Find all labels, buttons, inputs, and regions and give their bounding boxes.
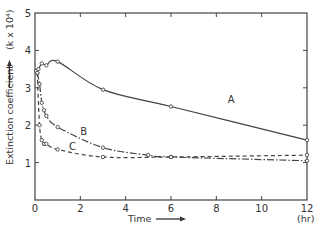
data-point [101,155,104,158]
x-axis-arrow-icon [156,217,186,222]
data-point [45,114,48,117]
data-point [38,82,41,85]
data-point [45,64,48,67]
data-point [40,101,43,104]
data-point [42,109,45,112]
series-b: B [36,71,309,162]
y-tick-label: 5 [25,8,31,19]
y-tick-label: 1 [25,158,31,169]
x-tick-label: 2 [77,203,83,214]
data-point [45,142,48,145]
x-axis-label: Time [127,213,151,224]
chart-labels: Time (hr) Extinction coefficient (k x 10… [4,10,314,224]
axis-ticks: 02468101212345 [25,8,314,214]
data-series: ABC [34,60,308,163]
data-point [169,105,172,108]
x-tick-label: 6 [168,203,174,214]
data-point [56,148,59,151]
x-tick-label: 0 [32,203,38,214]
curve-label-a: A [228,94,235,105]
data-point [38,124,41,127]
x-tick-label: 8 [213,203,219,214]
data-point [305,138,308,141]
y-tick-label: 2 [25,120,31,131]
data-point [101,88,104,91]
extinction-chart: 02468101212345 ABC Time (hr) Extinction … [0,0,319,235]
data-point [56,125,59,128]
data-point [305,159,308,162]
data-point [305,153,308,156]
data-point [40,62,43,65]
data-point [147,153,150,156]
series-a: A [34,60,308,142]
data-point [36,71,39,74]
curve-label-b: B [80,126,87,137]
data-point [37,67,40,70]
data-point [169,155,172,158]
curve-label-c: C [69,141,76,152]
y-tick-label: 4 [25,45,31,56]
data-point [101,146,104,149]
x-tick-label: 10 [255,203,268,214]
data-point [40,138,43,141]
x-axis-unit: (hr) [297,213,314,224]
y-axis-unit: (k x 10⁴) [4,10,15,50]
series-c: C [36,71,309,159]
data-point [56,60,59,63]
y-tick-label: 3 [25,83,31,94]
